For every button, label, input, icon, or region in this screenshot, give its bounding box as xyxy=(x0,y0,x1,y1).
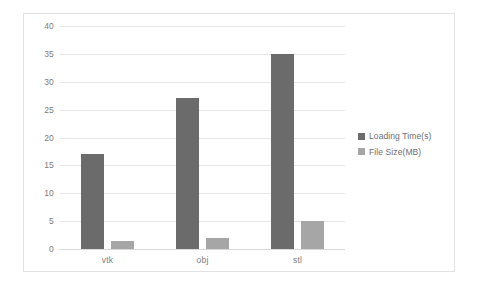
legend-swatch-icon xyxy=(358,133,365,140)
x-axis-tick-label: vtk xyxy=(102,255,113,265)
bar xyxy=(271,54,294,249)
chart-container: 0510152025303540vtkobjstl Loading Time(s… xyxy=(23,13,455,272)
y-axis-tick-label: 40 xyxy=(44,21,54,31)
y-axis-tick-label: 20 xyxy=(44,133,54,143)
gridline xyxy=(60,26,345,27)
x-axis-line xyxy=(60,249,345,250)
y-axis-tick-label: 15 xyxy=(44,160,54,170)
y-axis-tick-label: 0 xyxy=(49,244,54,254)
y-axis-tick-label: 5 xyxy=(49,216,54,226)
y-axis-tick-label: 30 xyxy=(44,77,54,87)
x-axis-tick-label: obj xyxy=(197,255,209,265)
bar xyxy=(176,98,199,249)
bar xyxy=(111,241,134,249)
bar xyxy=(206,238,229,249)
y-axis-tick-label: 35 xyxy=(44,49,54,59)
gridline xyxy=(60,82,345,83)
legend-item-label: File Size(MB) xyxy=(369,148,421,157)
legend-swatch-icon xyxy=(358,148,365,155)
bar xyxy=(81,154,104,249)
chart-legend: Loading Time(s)File Size(MB) xyxy=(358,132,453,163)
legend-item[interactable]: File Size(MB) xyxy=(358,148,453,157)
plot-area: 0510152025303540vtkobjstl xyxy=(60,26,345,249)
legend-item[interactable]: Loading Time(s) xyxy=(358,132,453,141)
x-axis-tick-label: stl xyxy=(293,255,302,265)
gridline xyxy=(60,54,345,55)
y-axis-tick-label: 25 xyxy=(44,105,54,115)
bar xyxy=(301,221,324,249)
y-axis-tick-label: 10 xyxy=(44,188,54,198)
gridline xyxy=(60,110,345,111)
legend-item-label: Loading Time(s) xyxy=(369,132,431,141)
gridline xyxy=(60,138,345,139)
